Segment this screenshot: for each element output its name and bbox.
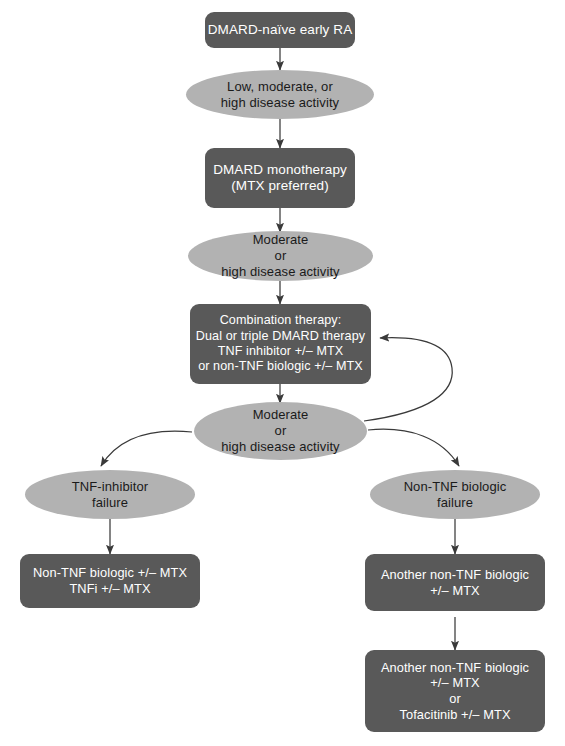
flowchart-canvas: DMARD-naïve early RA Low, moderate, or h…	[0, 0, 565, 746]
edge-moderate2-feedback-to-combination	[364, 338, 452, 421]
node-label: Non-TNF biologic failure	[398, 479, 513, 511]
node-label: TNF-inhibitor failure	[66, 479, 154, 511]
node-label: Non-TNF biologic +/– MTX TNFi +/– MTX	[27, 565, 193, 596]
node-label: Moderate or high disease activity	[215, 232, 345, 280]
node-tnf-inhibitor-failure: TNF-inhibitor failure	[25, 470, 195, 519]
node-moderate-or-high-disease-activity-2: Moderate or high disease activity	[194, 402, 367, 460]
node-combination-therapy: Combination therapy: Dual or triple DMAR…	[190, 304, 371, 384]
node-another-non-tnf-biologic-or-tofacitinib: Another non-TNF biologic +/– MTX or Tofa…	[365, 650, 545, 732]
node-another-non-tnf-biologic: Another non-TNF biologic +/– MTX	[365, 554, 545, 611]
node-dmard-naive-early-ra: DMARD-naïve early RA	[205, 12, 355, 48]
node-label: Another non-TNF biologic +/– MTX	[375, 567, 535, 598]
node-low-moderate-high-disease-activity: Low, moderate, or high disease activity	[186, 70, 374, 119]
node-non-tnf-biologic-or-tnfi: Non-TNF biologic +/– MTX TNFi +/– MTX	[20, 554, 200, 608]
node-non-tnf-biologic-failure: Non-TNF biologic failure	[370, 470, 540, 519]
node-label: Low, moderate, or high disease activity	[215, 79, 345, 111]
node-label: Combination therapy: Dual or triple DMAR…	[190, 313, 371, 374]
edge-moderate2-to-nontnf-failure	[368, 429, 459, 466]
node-label: Moderate or high disease activity	[215, 407, 345, 455]
node-label: Another non-TNF biologic +/– MTX or Tofa…	[375, 660, 535, 722]
node-label: DMARD-naïve early RA	[202, 22, 359, 38]
edge-moderate2-to-tnf-failure	[101, 431, 192, 466]
node-moderate-or-high-disease-activity-1: Moderate or high disease activity	[188, 231, 373, 281]
node-label: DMARD monotherapy (MTX preferred)	[207, 162, 353, 195]
node-dmard-monotherapy: DMARD monotherapy (MTX preferred)	[205, 148, 355, 208]
